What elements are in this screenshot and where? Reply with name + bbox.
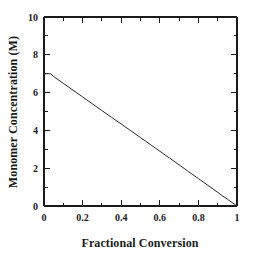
x-tick-label: 0.8	[192, 212, 205, 223]
y-axis-title: Monomer Concentration (M)	[6, 36, 20, 188]
y-tick-label: 8	[33, 49, 38, 60]
y-tick-label: 0	[33, 201, 38, 212]
figure-background	[0, 0, 256, 256]
x-tick-label: 1	[235, 212, 240, 223]
x-tick-label: 0.4	[115, 212, 128, 223]
y-tick-label: 4	[33, 125, 38, 136]
y-tick-label: 10	[28, 12, 38, 23]
x-tick-label: 0.2	[76, 212, 89, 223]
y-tick-label: 2	[33, 163, 38, 174]
line-chart-canvas: 00.20.40.60.810246810 Fractional Convers…	[0, 0, 256, 256]
x-tick-label: 0	[42, 212, 47, 223]
y-tick-label: 6	[33, 87, 38, 98]
x-axis-title: Fractional Conversion	[81, 236, 198, 250]
x-tick-label: 0.6	[154, 212, 167, 223]
chart-figure: 00.20.40.60.810246810 Fractional Convers…	[0, 0, 256, 256]
